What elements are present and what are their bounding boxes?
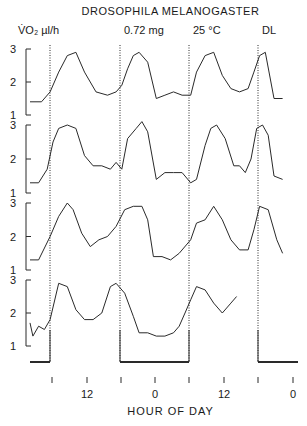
y-tick-label: 1 — [10, 340, 16, 352]
y-tick-label: 2 — [10, 76, 16, 88]
y-tick-label: 2 — [10, 231, 16, 243]
y-tick-label: 2 — [10, 153, 16, 165]
y-tick-label: 3 — [10, 43, 16, 55]
x-tick-label: 0 — [290, 388, 296, 400]
x-axis-label: HOUR OF DAY — [0, 405, 307, 417]
y-tick-label: 2 — [10, 307, 16, 319]
vo2-trace — [30, 203, 283, 260]
x-tick-label: 12 — [81, 388, 93, 400]
actogram-plot: 321321321321120120 — [0, 0, 307, 426]
x-tick-label: 0 — [152, 388, 158, 400]
vo2-trace — [30, 52, 283, 102]
y-tick-label: 3 — [10, 119, 16, 131]
x-tick-label: 12 — [218, 388, 230, 400]
y-axis-bracket — [26, 49, 31, 115]
vo2-trace — [30, 283, 237, 336]
y-tick-label: 3 — [10, 197, 16, 209]
vo2-trace — [30, 122, 283, 183]
y-tick-label: 3 — [10, 274, 16, 286]
y-axis-bracket — [26, 280, 31, 346]
